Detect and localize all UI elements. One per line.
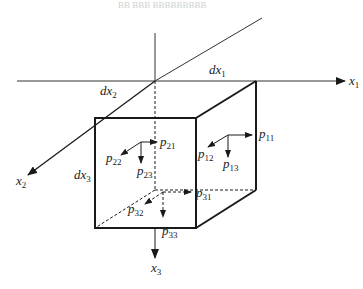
x2-label: x2 [15, 173, 26, 190]
p23-label: p23 [136, 163, 153, 180]
p21-label: p21 [159, 134, 176, 151]
cube-element [95, 81, 256, 228]
dx2-label: dx2 [100, 83, 117, 100]
dx3-label: dx3 [74, 167, 91, 184]
stress-element-diagram: BB BBB BBBBBBBBB x1 [0, 0, 363, 289]
p12-label: p12 [197, 146, 214, 163]
x1-label: x1 [348, 73, 359, 90]
p31-label: p31 [195, 185, 212, 202]
p13-label: p13 [222, 156, 239, 173]
x2-axis [28, 81, 155, 175]
front-face-stresses [121, 142, 157, 163]
dx1-label: dx1 [209, 62, 226, 79]
header-text: BB BBB BBBBBBBBB [118, 0, 207, 10]
p33-label: p33 [161, 223, 178, 240]
p32-label: p32 [127, 201, 144, 218]
x3-label: x3 [150, 260, 162, 277]
p22-label: p22 [105, 150, 122, 167]
right-face-stresses [208, 135, 252, 157]
bottom-face-stresses [145, 192, 191, 217]
p11-label: p11 [258, 126, 274, 143]
